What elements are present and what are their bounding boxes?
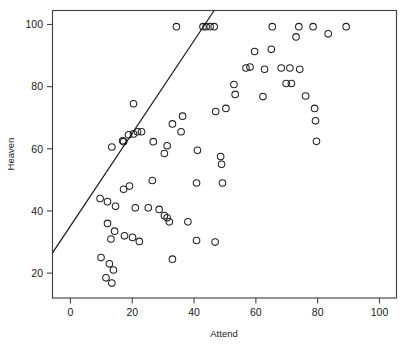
data-point — [138, 128, 145, 135]
x-tick-label: 100 — [371, 306, 389, 318]
data-point — [164, 142, 171, 149]
data-point — [310, 23, 317, 30]
data-point — [219, 180, 226, 187]
y-tick-label: 100 — [25, 18, 43, 30]
data-point — [178, 128, 185, 135]
data-points-layer — [97, 23, 350, 286]
plot-canvas: 020406080100 20406080100 Attend Heaven — [0, 0, 411, 348]
data-point — [166, 219, 173, 226]
data-point — [193, 180, 200, 187]
data-point — [109, 144, 116, 151]
data-point — [129, 234, 136, 241]
data-point — [223, 105, 230, 112]
data-point — [311, 105, 318, 112]
data-point — [343, 23, 350, 30]
data-point — [136, 238, 143, 245]
x-tick-label: 80 — [312, 306, 324, 318]
data-point — [161, 150, 168, 157]
data-point — [312, 118, 319, 125]
data-point — [156, 206, 163, 213]
data-point — [121, 233, 128, 240]
data-point — [169, 121, 176, 128]
data-point — [130, 100, 137, 107]
data-point — [108, 236, 115, 243]
x-tick-label: 40 — [188, 306, 200, 318]
data-point — [231, 81, 238, 88]
y-axis-title: Heaven — [5, 138, 16, 171]
y-axis-tick-labels: 20406080100 — [25, 18, 43, 279]
x-tick-label: 20 — [126, 306, 138, 318]
data-point — [218, 161, 225, 168]
data-point — [103, 275, 110, 282]
data-point — [145, 205, 152, 212]
x-axis-ticks — [70, 298, 379, 304]
data-point — [296, 23, 303, 30]
plot-frame — [53, 11, 397, 299]
fit-line-segment — [53, 11, 215, 253]
y-tick-label: 20 — [31, 267, 43, 279]
data-point — [212, 108, 219, 115]
data-point — [150, 138, 157, 145]
data-point — [179, 113, 186, 120]
data-point — [313, 138, 320, 145]
data-point — [325, 31, 332, 38]
data-point — [251, 48, 258, 55]
data-point — [110, 267, 117, 274]
y-tick-label: 80 — [31, 80, 43, 92]
data-point — [111, 228, 118, 235]
data-point — [302, 93, 309, 100]
data-point — [106, 261, 113, 268]
data-point — [269, 23, 276, 30]
data-point — [169, 256, 176, 263]
data-point — [104, 220, 111, 227]
data-point — [278, 65, 285, 72]
data-point — [173, 23, 180, 30]
data-point — [211, 23, 218, 30]
y-axis-ticks — [47, 24, 53, 273]
data-point — [104, 198, 111, 205]
data-point — [261, 66, 268, 73]
data-point — [212, 239, 219, 246]
data-point — [97, 195, 104, 202]
scatter-plot-figure: 020406080100 20406080100 Attend Heaven — [0, 0, 411, 348]
data-point — [132, 205, 139, 212]
data-point — [232, 91, 239, 98]
data-point — [149, 177, 156, 184]
data-point — [217, 153, 224, 160]
x-axis-tick-labels: 020406080100 — [68, 306, 389, 318]
data-point — [260, 93, 267, 100]
y-tick-label: 40 — [31, 205, 43, 217]
data-point — [98, 254, 105, 261]
data-point — [194, 147, 201, 154]
data-point — [112, 203, 119, 210]
x-tick-label: 0 — [68, 306, 74, 318]
data-point — [193, 237, 200, 244]
data-point — [109, 280, 116, 287]
data-point — [268, 46, 275, 53]
data-point — [120, 186, 127, 193]
data-point — [185, 219, 192, 226]
data-point — [293, 34, 300, 41]
x-axis-title: Attend — [210, 328, 237, 339]
regression-line — [53, 11, 215, 253]
data-point — [296, 66, 303, 73]
y-tick-label: 60 — [31, 143, 43, 155]
data-point — [247, 64, 254, 71]
x-tick-label: 60 — [250, 306, 262, 318]
data-point — [287, 65, 294, 72]
